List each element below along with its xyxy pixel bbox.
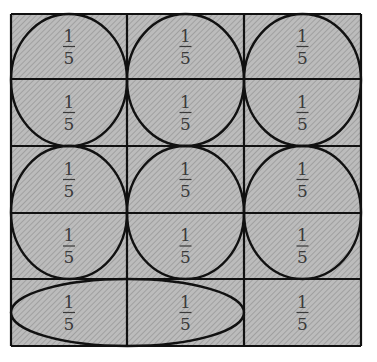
fraction-numerator: 1 xyxy=(64,225,75,245)
fraction-numerator: 1 xyxy=(180,225,191,245)
fraction-denominator: 5 xyxy=(64,48,75,68)
fraction-numerator: 1 xyxy=(297,225,308,245)
fraction-denominator: 5 xyxy=(64,314,75,334)
fraction-denominator: 5 xyxy=(180,247,191,267)
fraction-label: 15 xyxy=(63,92,75,134)
fraction-numerator: 1 xyxy=(180,26,191,46)
fraction-numerator: 1 xyxy=(180,292,191,312)
fraction-numerator: 1 xyxy=(180,159,191,179)
fraction-label: 15 xyxy=(180,292,192,334)
fraction-label: 15 xyxy=(297,159,309,201)
fraction-denominator: 5 xyxy=(180,181,191,201)
fraction-denominator: 5 xyxy=(297,48,308,68)
fraction-denominator: 5 xyxy=(64,181,75,201)
fraction-denominator: 5 xyxy=(297,181,308,201)
fraction-denominator: 5 xyxy=(64,114,75,134)
fraction-numerator: 1 xyxy=(64,292,75,312)
fraction-label: 15 xyxy=(297,92,309,134)
fraction-label: 15 xyxy=(63,225,75,267)
fraction-grid-diagram: 151515151515151515151515151515 xyxy=(0,0,377,362)
fraction-numerator: 1 xyxy=(297,159,308,179)
fraction-numerator: 1 xyxy=(64,92,75,112)
fraction-label: 15 xyxy=(63,26,75,68)
fraction-label: 15 xyxy=(63,159,75,201)
fraction-label: 15 xyxy=(180,26,192,68)
fraction-label: 15 xyxy=(63,292,75,334)
fraction-numerator: 1 xyxy=(297,26,308,46)
fraction-denominator: 5 xyxy=(180,314,191,334)
fraction-numerator: 1 xyxy=(297,92,308,112)
fraction-label: 15 xyxy=(297,26,309,68)
fraction-label: 15 xyxy=(297,292,309,334)
fraction-label: 15 xyxy=(180,159,192,201)
fraction-denominator: 5 xyxy=(297,114,308,134)
fraction-label: 15 xyxy=(297,225,309,267)
fraction-numerator: 1 xyxy=(64,26,75,46)
fraction-numerator: 1 xyxy=(297,292,308,312)
fraction-numerator: 1 xyxy=(180,92,191,112)
fraction-denominator: 5 xyxy=(297,314,308,334)
fraction-denominator: 5 xyxy=(180,48,191,68)
fraction-denominator: 5 xyxy=(64,247,75,267)
fraction-label: 15 xyxy=(180,92,192,134)
fraction-numerator: 1 xyxy=(64,159,75,179)
fraction-denominator: 5 xyxy=(297,247,308,267)
fraction-denominator: 5 xyxy=(180,114,191,134)
fraction-label: 15 xyxy=(180,225,192,267)
